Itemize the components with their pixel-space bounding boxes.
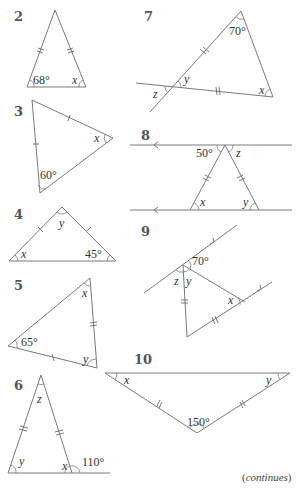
problem-3: 3 60° x <box>14 100 113 193</box>
angle-arc <box>38 384 44 385</box>
angle-arc <box>194 203 199 210</box>
equal-side-tick <box>159 402 162 408</box>
angle-arc <box>87 359 96 366</box>
equal-side-tick <box>216 87 217 95</box>
angle-arc <box>229 145 233 152</box>
angle-label-110: 110° <box>82 455 105 469</box>
angle-arc <box>11 465 16 473</box>
geometry-figures: 2 68° x 7 70° y z x 3 60° <box>0 0 302 492</box>
triangle-side <box>41 375 72 473</box>
triangle-side <box>225 145 259 210</box>
angle-label-z: z <box>235 146 241 160</box>
angle-label-y: y <box>185 274 192 288</box>
angle-label-y: y <box>58 216 65 230</box>
angle-arc <box>104 134 106 143</box>
angle-label-x: x <box>123 373 130 387</box>
continues-text: continues <box>246 471 288 483</box>
angle-label-x: x <box>199 195 206 209</box>
problem-number: 4 <box>14 207 23 222</box>
angle-label-y: y <box>183 72 190 86</box>
angle-label-y: y <box>18 454 25 468</box>
equal-side-tick <box>242 400 245 406</box>
angle-label-x: x <box>61 459 68 473</box>
triangle-side <box>183 265 245 302</box>
angle-arc <box>236 17 244 19</box>
angle-arc <box>57 212 67 214</box>
angle-label-x: x <box>71 73 78 87</box>
angle-label-z: z <box>173 274 179 288</box>
angle-label-70: 70° <box>229 24 246 38</box>
problem-4: 4 y x 45° <box>9 207 116 261</box>
paren-close: ) <box>288 471 292 483</box>
angle-label-68: 68° <box>33 73 50 87</box>
problem-number: 3 <box>14 104 23 119</box>
problem-7: 7 70° y z x <box>136 9 273 112</box>
equal-side-tick <box>68 51 74 53</box>
problem-8: 8 50° z x y <box>130 128 292 213</box>
angle-label-50: 50° <box>196 146 213 160</box>
problem-number: 7 <box>144 9 153 24</box>
problem-number: 9 <box>141 224 150 239</box>
angle-label-45: 45° <box>85 247 102 261</box>
problem-6: 6 z y x 110° <box>8 375 110 473</box>
angle-arc <box>15 340 17 348</box>
angle-arc <box>79 80 83 87</box>
angle-arc <box>183 269 189 272</box>
problem-number: 6 <box>14 378 23 393</box>
angle-arc <box>250 203 255 210</box>
angle-label-x: x <box>258 83 265 97</box>
angle-arc <box>217 145 221 152</box>
angle-label-z: z <box>152 87 158 101</box>
equal-side-tick <box>90 325 97 326</box>
angle-arc <box>265 89 270 96</box>
angle-label-y: y <box>242 195 249 209</box>
angle-label-x: x <box>20 247 27 261</box>
equal-side-tick <box>90 322 97 323</box>
arrow-down-left-icon <box>210 238 214 244</box>
equal-side-tick <box>157 400 160 406</box>
problem-9: 9 70° z y x <box>141 224 272 337</box>
angle-label-x: x <box>81 286 88 300</box>
continues-note: (continues) <box>242 471 292 483</box>
angle-label-65: 65° <box>21 335 38 349</box>
problem-5: 5 x 65° y <box>8 278 97 368</box>
problem-10: 10 x y 150° <box>105 352 290 433</box>
triangle-side <box>8 375 41 473</box>
problem-number: 2 <box>14 9 23 24</box>
equal-side-tick <box>86 227 91 232</box>
angle-label-x: x <box>93 131 100 145</box>
problem-number: 5 <box>14 278 23 293</box>
angle-arc <box>278 373 280 380</box>
equal-side-tick <box>219 87 220 95</box>
angle-label-y: y <box>82 352 89 366</box>
angle-arc <box>176 270 183 272</box>
angle-label-70: 70° <box>192 254 209 268</box>
angle-label-150: 150° <box>187 415 210 429</box>
angle-arc <box>115 373 117 380</box>
angle-label-60: 60° <box>40 168 57 182</box>
angle-label-x: x <box>227 293 234 307</box>
problem-number: 10 <box>134 352 152 367</box>
angle-label-y: y <box>265 373 272 387</box>
problem-2: 2 68° x <box>14 9 86 87</box>
problem-number: 8 <box>141 128 150 143</box>
worksheet-page: 2 68° x 7 70° y z x 3 60° <box>0 0 302 492</box>
angle-label-z: z <box>36 392 42 406</box>
angle-arc <box>15 255 18 261</box>
angle-arc <box>189 261 191 269</box>
extended-line <box>150 11 241 112</box>
angle-arc <box>107 255 110 261</box>
